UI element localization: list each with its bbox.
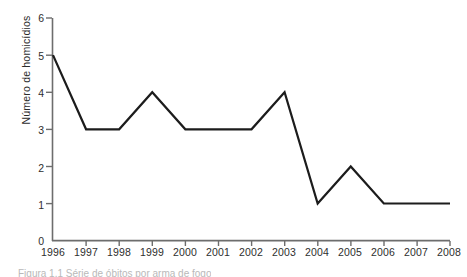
figure-caption: Figura 1.1 Série de óbitos por arma de f… <box>18 268 211 277</box>
line-chart-plot <box>0 0 467 277</box>
x-axis-ticks <box>86 241 450 246</box>
y-axis-ticks <box>46 18 52 204</box>
data-series-line <box>53 55 450 203</box>
figure-container: Número de homicídios 6 5 4 3 2 1 0 1996 … <box>0 0 467 277</box>
